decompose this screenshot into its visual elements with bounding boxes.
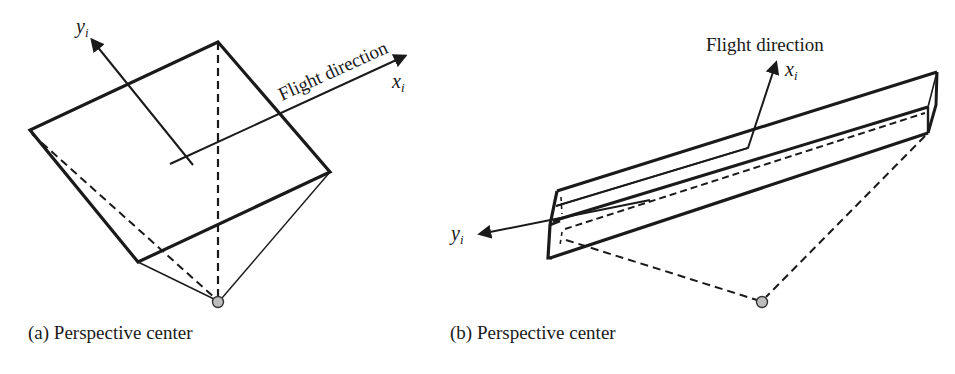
x-axis-arrow: [170, 56, 405, 164]
image-frame-square: [30, 42, 330, 262]
caption-a: (a) Perspective center: [28, 322, 193, 344]
panel-b: Flight direction xi yi (b) Perspective c…: [449, 34, 937, 344]
x-axis-label-a: xi: [391, 70, 405, 95]
perspective-center-a: [213, 297, 224, 308]
caption-b: (b) Perspective center: [450, 322, 616, 344]
projection-line-solid: [138, 262, 214, 299]
x-axis-label-b: xi: [784, 58, 798, 83]
perspective-center-b: [757, 297, 768, 308]
projection-line-solid: [222, 172, 330, 298]
y-axis-label-a: yi: [74, 15, 89, 40]
projection-line-dashed: [566, 240, 757, 300]
y-axis-label-b: yi: [449, 222, 464, 247]
flight-direction-label-b: Flight direction: [706, 34, 824, 55]
panel-a: yi xi Flight direction (a) Perspective c…: [28, 15, 405, 344]
x-axis-arrow-b: [556, 63, 776, 206]
y-axis-arrow: [92, 40, 193, 165]
diagram-canvas: yi xi Flight direction (a) Perspective c…: [0, 0, 955, 374]
strip-prism: [548, 72, 937, 258]
